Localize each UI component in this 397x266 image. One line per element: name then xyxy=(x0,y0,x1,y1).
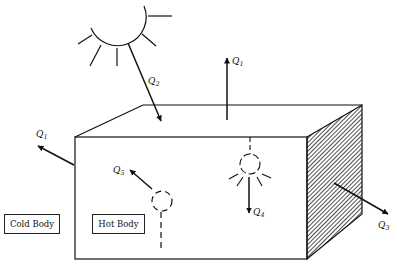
heat-transfer-diagram: Q2 Q1 Q1 Q5 Q4 Q3 Cold Body Hot xyxy=(0,0,397,266)
label-q1-top: Q1 xyxy=(232,56,244,68)
label-q2: Q2 xyxy=(148,76,160,88)
label-q3: Q3 xyxy=(378,220,390,232)
label-q5: Q5 xyxy=(113,165,125,177)
label-q4: Q4 xyxy=(253,207,265,219)
lamp-icon xyxy=(229,137,271,186)
box xyxy=(75,105,362,259)
hot-body-label: Hot Body xyxy=(92,214,145,234)
cold-body-label: Cold Body xyxy=(4,214,60,234)
shaded-right-face xyxy=(307,105,362,259)
internal-source xyxy=(152,191,172,250)
label-q1-left: Q1 xyxy=(36,129,48,141)
sun-icon xyxy=(78,6,172,66)
